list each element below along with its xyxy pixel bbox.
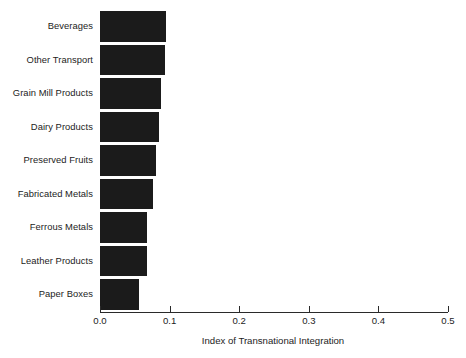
category-label: Preserved Fruits bbox=[0, 154, 93, 165]
x-axis-tick bbox=[309, 306, 310, 312]
category-label: Grain Mill Products bbox=[0, 87, 93, 98]
category-label: Dairy Products bbox=[0, 121, 93, 132]
x-axis-title: Index of Transnational Integration bbox=[0, 335, 466, 347]
x-axis-tick bbox=[239, 306, 240, 312]
bar bbox=[100, 279, 139, 310]
category-label: Fabricated Metals bbox=[0, 188, 93, 199]
x-axis-line bbox=[100, 312, 448, 313]
bar bbox=[100, 212, 147, 243]
bar bbox=[100, 45, 165, 76]
x-axis-tick bbox=[378, 306, 379, 312]
x-axis-tick bbox=[170, 306, 171, 312]
x-axis-title-text: Index of Transnational Integration bbox=[202, 335, 344, 346]
x-axis-tick-label: 0.5 bbox=[441, 315, 454, 327]
x-axis-tick-label: 0.4 bbox=[372, 315, 385, 327]
category-axis-labels: BeveragesOther TransportGrain Mill Produ… bbox=[0, 0, 93, 313]
bar bbox=[100, 246, 147, 277]
category-label: Other Transport bbox=[0, 54, 93, 65]
category-label: Paper Boxes bbox=[0, 288, 93, 299]
plot-area bbox=[100, 0, 448, 313]
x-axis-tick-label: 0.3 bbox=[302, 315, 315, 327]
x-axis-tick bbox=[100, 306, 101, 312]
x-axis-tick-label: 0.1 bbox=[163, 315, 176, 327]
bar bbox=[100, 11, 166, 42]
x-axis-tick-label: 0.2 bbox=[233, 315, 246, 327]
bar bbox=[100, 179, 153, 210]
category-label: Ferrous Metals bbox=[0, 221, 93, 232]
bar bbox=[100, 145, 156, 176]
x-axis-tick-label: 0.0 bbox=[93, 315, 106, 327]
bar bbox=[100, 78, 161, 109]
bar bbox=[100, 112, 159, 143]
category-label: Beverages bbox=[0, 20, 93, 31]
bar-chart: BeveragesOther TransportGrain Mill Produ… bbox=[0, 0, 466, 358]
category-label: Leather Products bbox=[0, 255, 93, 266]
x-axis-tick bbox=[448, 306, 449, 312]
